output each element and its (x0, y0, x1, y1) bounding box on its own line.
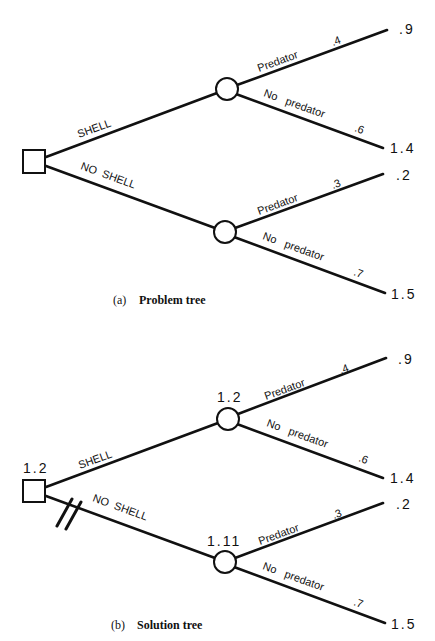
branch-label-no-shell: NO SHELL (91, 492, 149, 523)
figure-caption: Solution tree (137, 618, 203, 632)
decision-node-value: 1.2 (23, 460, 48, 476)
payoff-value: 1.5 (391, 616, 416, 632)
figure-caption: Problem tree (139, 293, 206, 307)
branch-label-no-shell: NO SHELL (79, 160, 137, 191)
chance-node-no-shell (214, 221, 236, 243)
probability-label: .4 (338, 361, 351, 375)
edge-shell-predator (238, 358, 386, 414)
outcome-label-predator: Predator (263, 376, 307, 402)
probability-label: .7 (352, 596, 365, 610)
pruned-branch-marker-icon (57, 499, 81, 529)
payoff-value: .9 (399, 21, 415, 37)
chance-node-shell (216, 78, 238, 100)
chance-node-value: 1.11 (207, 533, 241, 549)
caption-tag: (a) (113, 293, 126, 307)
caption-tag: (b) (111, 618, 125, 632)
probability-label: .6 (353, 122, 366, 136)
payoff-value: .2 (396, 496, 412, 512)
payoff-value: 1.5 (391, 286, 416, 302)
solution-tree: 1.2 1.2 1.11 SHELL NO SHELL Predator .4 … (23, 351, 416, 632)
payoff-value: 1.4 (390, 470, 415, 486)
probability-label: .7 (352, 266, 365, 280)
branch-label-shell: SHELL (76, 117, 113, 140)
edge-noshell-predator (235, 503, 383, 558)
edge-shell (46, 93, 217, 157)
payoff-value: .2 (396, 167, 412, 183)
decision-node (23, 150, 45, 173)
edge-noshell-predator (235, 174, 383, 228)
decision-trees-figure: SHELL NO SHELL Predator .4 No predator .… (0, 0, 435, 641)
payoff-value: .9 (398, 351, 414, 367)
decision-node (23, 480, 45, 502)
payoff-value: 1.4 (390, 140, 415, 156)
edge-no-shell (46, 166, 215, 228)
outcome-label-no-predator: No predator (265, 417, 330, 450)
chance-node-value: 1.2 (217, 389, 242, 405)
edge-shell (46, 423, 218, 487)
probability-label: .6 (357, 452, 370, 466)
edge-shell-predator (237, 30, 387, 85)
problem-tree: SHELL NO SHELL Predator .4 No predator .… (23, 21, 416, 307)
chance-node-no-shell (214, 551, 236, 573)
chance-node-shell (217, 408, 239, 430)
